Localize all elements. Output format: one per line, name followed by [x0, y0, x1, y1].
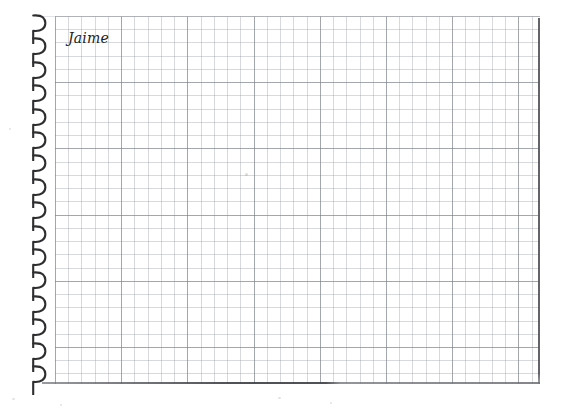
page-right-edge [538, 18, 540, 384]
background-speck [330, 402, 332, 404]
spiral-wire-ring-icon [26, 365, 60, 395]
background-speck [9, 128, 11, 130]
background-speck [60, 404, 62, 406]
notebook-scene: Jaime [0, 0, 567, 411]
page-title: Jaime [68, 30, 109, 46]
notebook-page [42, 16, 540, 384]
background-speck [278, 397, 281, 399]
graph-paper-grid [55, 16, 540, 384]
page-bottom-edge [42, 382, 540, 384]
page-top-edge [42, 16, 540, 17]
background-speck [12, 398, 15, 400]
page-smudge [245, 173, 248, 176]
spiral-binding [26, 14, 66, 390]
